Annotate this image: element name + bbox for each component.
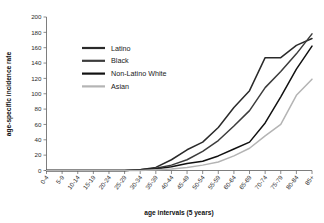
legend-label-non-latino-white: Non-Latino White (111, 69, 167, 78)
chart-container: 020406080100120140160180200 0-45-910-141… (0, 0, 324, 223)
y-tick-label: 40 (35, 136, 42, 143)
y-axis-title: age-specific incidence rate (5, 52, 13, 137)
legend-label-black: Black (111, 56, 129, 65)
y-tick-label: 60 (35, 121, 42, 128)
legend-label-asian: Asian (111, 82, 129, 91)
y-tick-label: 80 (35, 105, 42, 112)
y-tick-label: 100 (31, 90, 42, 97)
y-tick-label: 140 (31, 59, 42, 66)
y-tick-label: 180 (31, 29, 42, 36)
y-tick-label: 160 (31, 44, 42, 51)
y-tick-label: 200 (31, 13, 42, 20)
y-tick-label: 0 (38, 167, 42, 174)
x-axis-title: age intervals (5 years) (144, 209, 213, 217)
y-tick-label: 120 (31, 75, 42, 82)
y-tick-label: 20 (35, 151, 42, 158)
incidence-rate-line-chart: 020406080100120140160180200 0-45-910-141… (0, 0, 324, 223)
legend-label-latino: Latino (111, 44, 131, 53)
